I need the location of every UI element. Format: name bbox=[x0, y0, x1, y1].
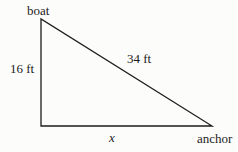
anchor-vertex-label: anchor bbox=[197, 132, 232, 145]
triangle-shape bbox=[0, 0, 238, 152]
base-variable-label: x bbox=[109, 131, 115, 144]
hypotenuse-length-label: 34 ft bbox=[127, 52, 151, 65]
triangle-diagram: boat 16 ft 34 ft x anchor bbox=[0, 0, 238, 152]
triangle-outline bbox=[41, 19, 212, 126]
boat-vertex-label: boat bbox=[27, 4, 49, 17]
vertical-side-length-label: 16 ft bbox=[10, 62, 34, 75]
